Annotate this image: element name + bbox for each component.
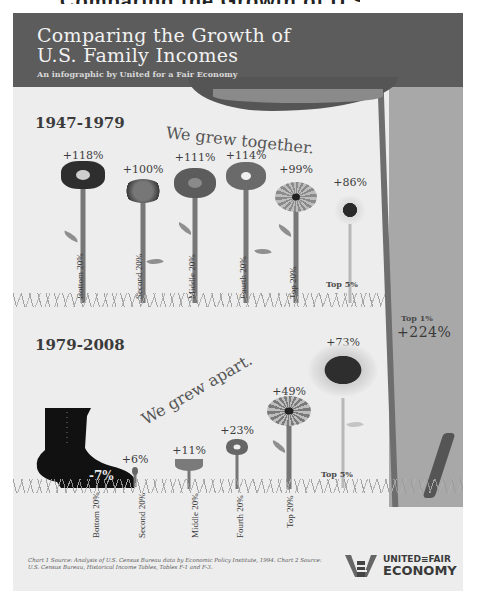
title-line-2: U.S. Family Incomes <box>37 45 290 65</box>
grass-ground <box>13 479 463 493</box>
s2-second20-value: +6% <box>122 453 149 466</box>
s1-fourth20-value: +114% <box>226 149 267 162</box>
leaf-icon <box>346 418 363 430</box>
s2-middle20-flower-icon <box>175 459 203 471</box>
leaf-icon <box>276 224 293 237</box>
s1-fourth20-flower-icon <box>226 162 266 190</box>
top1-value: +224% <box>397 324 451 340</box>
logo-line-2: ECONOMY <box>383 565 457 576</box>
section1-period: 1947-1979 <box>35 114 125 132</box>
s2-label-fourth20: Fourth 20% <box>235 495 245 538</box>
s2-label-second20: Second 20% <box>137 493 147 538</box>
leaf-icon <box>270 440 287 453</box>
s1-middle20-value: +111% <box>175 151 216 164</box>
s2-top5-sunflower-icon <box>308 343 378 397</box>
title-line-1: Comparing the Growth of <box>37 25 290 45</box>
s1-top20-value: +99% <box>279 163 313 176</box>
clipped-caption-text: Comparing the Growth of U.S. Family Inco… <box>60 0 360 4</box>
s2-top20-flower-icon <box>267 396 311 426</box>
subtitle: An infographic by United for a Fair Econ… <box>37 69 237 79</box>
page-title: Comparing the Growth of U.S. Family Inco… <box>37 25 290 65</box>
leaf-icon <box>254 246 271 257</box>
grass-divider <box>13 293 385 307</box>
s2-middle20-value: +11% <box>172 444 206 457</box>
s2-second20-bud-icon <box>132 467 138 475</box>
top1-label: Top 1% <box>401 313 433 323</box>
s2-label-bottom20: Bottom 20% <box>91 492 101 538</box>
section2-period: 1979-2008 <box>35 336 125 354</box>
s1-top20-flower-icon <box>275 182 317 212</box>
boot-icon <box>31 408 136 488</box>
ufe-logo-text: UNITED≡FAIR ECONOMY <box>383 554 457 576</box>
leaf-icon <box>176 222 193 235</box>
leaf-icon <box>62 230 79 242</box>
infographic: Comparing the Growth of U.S. Family Inco… <box>13 13 463 591</box>
s1-bottom20-flower-icon <box>61 161 105 189</box>
s2-label-top20: Top 20% <box>285 495 295 528</box>
ufe-logo: UNITED≡FAIR ECONOMY <box>343 551 458 581</box>
ufe-logo-mark-icon <box>343 551 379 581</box>
s2-fourth20-value: +23% <box>220 424 254 437</box>
leaf-icon <box>146 255 163 267</box>
s1-top5-value: +86% <box>333 176 367 189</box>
section2-slogan: We grew apart. <box>138 350 255 429</box>
s2-fourth20-flower-icon <box>226 439 248 455</box>
s1-middle20-flower-icon <box>174 168 216 198</box>
s1-top5-flower-icon <box>332 196 368 224</box>
s1-second20-value: +100% <box>123 163 164 176</box>
s1-top5-stem <box>349 213 352 303</box>
giant-leaf-highlight <box>213 89 383 103</box>
s1-second20-flower-icon <box>123 179 163 203</box>
source-citation: Chart 1 Source: Analysis of U.S. Census … <box>28 557 328 571</box>
s2-label-middle20: Middle 20% <box>190 493 200 538</box>
s2-top5-label: Top 5% <box>321 469 353 479</box>
s1-top5-label: Top 5% <box>326 279 358 289</box>
